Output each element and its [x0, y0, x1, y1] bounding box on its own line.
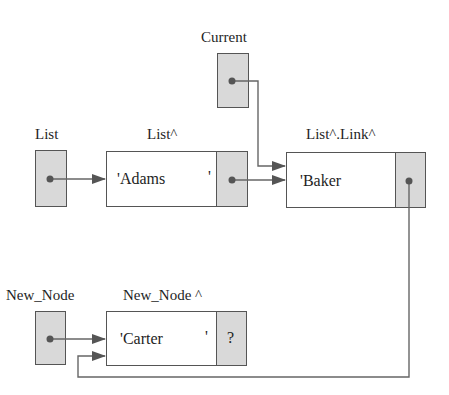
- pointer-dot-adams-link: [229, 177, 236, 184]
- arrow-baker-to-carter: [78, 181, 409, 377]
- pointer-dot-current: [229, 78, 236, 85]
- pointer-dot-baker-link: [406, 178, 413, 185]
- arrow-current-to-baker: [232, 81, 285, 166]
- pointer-arrows: [0, 0, 449, 395]
- pointer-dot-new-node: [47, 336, 54, 343]
- pointer-dot-list: [47, 176, 54, 183]
